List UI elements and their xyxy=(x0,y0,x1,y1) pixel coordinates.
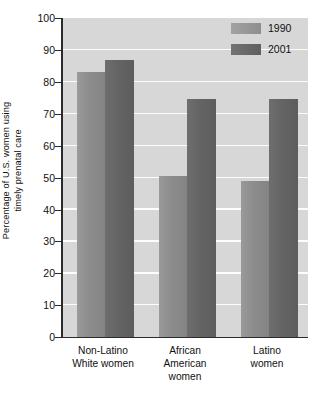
bar-non-latino-white-2001 xyxy=(105,60,134,338)
bar-latino-2001 xyxy=(269,99,298,337)
y-axis-title-line-1: Percentage of U.S. women using xyxy=(2,101,14,238)
x-label-latino-line-2: women xyxy=(226,357,308,370)
x-label-african-american-line-1: African xyxy=(144,344,226,357)
legend-swatch-1990-icon xyxy=(231,23,261,34)
x-label-non-latino-white: Non-Latino White women xyxy=(62,344,144,396)
bar-african-american-2001 xyxy=(187,99,216,337)
legend-label-2001: 2001 xyxy=(268,44,291,55)
bar-non-latino-white-1990 xyxy=(77,72,105,337)
x-label-non-latino-white-line-1: Non-Latino xyxy=(62,344,144,357)
x-label-latino: Latino women xyxy=(226,344,308,396)
y-axis-tick-labels: 100 90 80 70 60 50 40 30 20 10 0 xyxy=(25,0,55,396)
x-label-non-latino-white-line-2: White women xyxy=(62,357,144,370)
x-label-african-american-line-3: women xyxy=(144,370,226,383)
bar-african-american-1990 xyxy=(159,176,187,337)
legend-item-2001: 2001 xyxy=(231,42,305,57)
y-axis-title-line-2: timely prenatal care xyxy=(13,101,25,238)
x-label-latino-line-1: Latino xyxy=(226,344,308,357)
x-label-african-american: African American women xyxy=(144,344,226,396)
x-axis-line xyxy=(61,337,308,338)
legend-swatch-2001-icon xyxy=(231,44,261,55)
y-tick-label-20: 20 xyxy=(27,268,55,279)
x-label-african-american-line-2: American xyxy=(144,357,226,370)
y-tick-label-30: 30 xyxy=(27,236,55,247)
legend-label-1990: 1990 xyxy=(268,23,291,34)
y-axis-title: Percentage of U.S. women using timely pr… xyxy=(0,0,26,340)
prenatal-care-bar-chart: Percentage of U.S. women using timely pr… xyxy=(0,0,328,396)
y-tick-label-100: 100 xyxy=(27,13,55,24)
legend-item-1990: 1990 xyxy=(231,21,305,36)
x-axis-category-labels: Non-Latino White women African American … xyxy=(62,344,308,396)
y-tick-label-60: 60 xyxy=(27,141,55,152)
y-tick-label-40: 40 xyxy=(27,205,55,216)
y-tick-label-0: 0 xyxy=(27,332,55,343)
y-tick-label-10: 10 xyxy=(27,300,55,311)
y-tick-label-90: 90 xyxy=(27,45,55,56)
plot-area xyxy=(62,18,308,337)
bar-latino-1990 xyxy=(241,181,269,337)
legend: 1990 2001 xyxy=(231,21,305,63)
y-tick-label-70: 70 xyxy=(27,109,55,120)
y-tick-label-80: 80 xyxy=(27,77,55,88)
y-tick-label-50: 50 xyxy=(27,173,55,184)
